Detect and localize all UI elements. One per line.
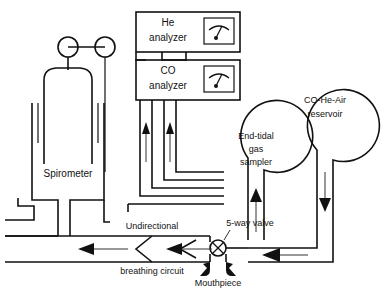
- reservoir-label-line2: reservoir: [307, 109, 342, 119]
- spirometer-to-circuit-link: [104, 200, 110, 222]
- tube-co-outer: [164, 108, 224, 180]
- co-analyzer-unit: CO analyzer: [136, 60, 240, 108]
- sampler-label-line3: sampler: [240, 157, 272, 167]
- spirometer-tank-right-wall: [70, 103, 104, 214]
- spirometer-outlet-duct: [5, 198, 34, 220]
- arrow-valve-return-left: [262, 248, 308, 262]
- apparatus-diagram: Spirometer He analyzer: [0, 0, 388, 291]
- five-way-valve-label: 5-way valve: [226, 218, 274, 228]
- breathing-circuit-label-line2: breathing circuit: [120, 266, 184, 276]
- he-analyzer-unit: He analyzer: [136, 12, 240, 60]
- he-gauge-needle: [216, 26, 222, 38]
- co-gauge-hub: [214, 84, 218, 88]
- reservoir-label-line1: CO-He-Air: [304, 95, 346, 105]
- co-gauge-arc: [209, 74, 229, 78]
- diagram-canvas: Spirometer He analyzer: [0, 0, 388, 291]
- co-analyzer-label-line2: analyzer: [149, 80, 187, 91]
- one-way-valve-chevron: [136, 236, 152, 262]
- co-analyzer-gauge-icon: [204, 66, 234, 92]
- spirometer-tank-left-wall: [32, 103, 58, 214]
- spirometer-label: Spirometer: [44, 168, 94, 179]
- co-gauge-needle: [216, 74, 222, 86]
- valve-and-mouthpiece: 5-way valve Mouthpiece: [195, 218, 274, 288]
- reservoir-unit: CO-He-Air reservoir: [248, 90, 379, 262]
- he-analyzer-label-line2: analyzer: [149, 32, 187, 43]
- he-gauge-hub: [214, 36, 218, 40]
- he-analyzer-label-line1: He: [162, 17, 175, 28]
- arrow-circuit-inspiratory-left: [78, 243, 128, 255]
- he-analyzer-mid-port: [162, 52, 186, 60]
- tube-co-inner: [176, 108, 224, 172]
- spirometer-assembly: Spirometer: [5, 37, 115, 236]
- arrow-he-feed-up: [142, 122, 150, 162]
- he-analyzer-gauge-icon: [204, 18, 234, 44]
- reservoir-tube-left: [248, 160, 317, 248]
- sampler-label-line1: End-tidal: [238, 131, 274, 141]
- he-analyzer-left-port: [136, 52, 146, 60]
- spirometer-bell: [44, 68, 92, 142]
- mouthpiece-icon: [200, 258, 236, 276]
- breathing-circuit-label-line1: Undirectional: [126, 221, 179, 231]
- arrow-reservoir-outlet-down: [319, 172, 331, 212]
- valve-label-leader: [224, 230, 230, 240]
- tube-he-inner: [152, 108, 224, 188]
- co-analyzer-label-line1: CO: [161, 65, 176, 76]
- sampler-label-line2: gas: [249, 144, 264, 154]
- mouthpiece-label: Mouthpiece: [195, 278, 242, 288]
- he-gauge-arc: [209, 26, 229, 30]
- analyzer-sampling-tubes: [128, 108, 224, 212]
- breathing-circuit: Undirectional breathing circuit: [5, 221, 308, 276]
- arrow-co-feed-up: [166, 122, 174, 162]
